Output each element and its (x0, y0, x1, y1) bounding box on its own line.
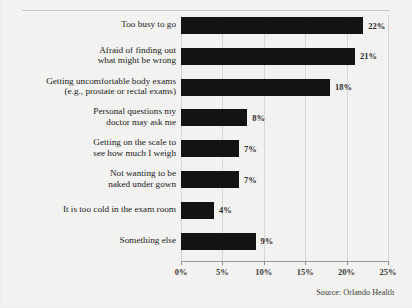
category-label: It is too cold in the exam room (0, 204, 176, 215)
source-attribution: Source: Orlando Health (316, 288, 394, 297)
bar-row: Not wanting to benaked under gown7% (0, 169, 412, 199)
bar-row: Getting on the scale tosee how much I we… (0, 138, 412, 168)
x-tick-mark (305, 261, 306, 265)
category-label-line: Afraid of finding out (0, 45, 176, 56)
category-label-line: Getting on the scale to (0, 137, 176, 148)
category-label: Getting on the scale tosee how much I we… (0, 137, 176, 158)
bar-value-label: 7% (244, 144, 257, 154)
header-divider (22, 10, 390, 11)
x-tick-label: 0% (175, 267, 188, 277)
category-label-line: (e.g., prostate or rectal exams) (0, 86, 176, 97)
bar-row: Afraid of finding outwhat might be wrong… (0, 46, 412, 76)
category-label-line: see how much I weigh (0, 148, 176, 159)
bar-value-label: 9% (261, 236, 274, 246)
bar (181, 79, 330, 96)
bar-chart-figure: 0%5%10%15%20%25% Too busy to go22%Afraid… (0, 0, 412, 308)
bar-value-label: 22% (368, 21, 385, 31)
bar (181, 171, 239, 188)
x-tick-label: 10% (255, 267, 272, 277)
category-label: Getting uncomfortable body exams(e.g., p… (0, 76, 176, 97)
category-label-line: doctor may ask me (0, 117, 176, 128)
bar (181, 109, 247, 126)
category-label-line: what might be wrong (0, 55, 176, 66)
x-tick-label: 25% (380, 267, 397, 277)
bar (181, 17, 363, 34)
bar-row: It is too cold in the exam room4% (0, 200, 412, 230)
category-label-line: Too busy to go (0, 19, 176, 30)
category-label-line: Something else (0, 235, 176, 246)
category-label-line: naked under gown (0, 179, 176, 190)
category-label-line: Not wanting to be (0, 168, 176, 179)
chart-title-cropped (0, 0, 412, 9)
x-tick-mark (264, 261, 265, 265)
category-label: Too busy to go (0, 19, 176, 30)
bar-row: Something else9% (0, 231, 412, 261)
category-label-line: Personal questions my (0, 106, 176, 117)
category-label: Not wanting to benaked under gown (0, 168, 176, 189)
bar-value-label: 18% (335, 82, 352, 92)
bar-value-label: 8% (252, 113, 265, 123)
bar-row: Too busy to go22% (0, 15, 412, 45)
category-label-line: It is too cold in the exam room (0, 204, 176, 215)
x-tick-mark (222, 261, 223, 265)
bar (181, 140, 239, 157)
category-label: Something else (0, 235, 176, 246)
x-tick-mark (347, 261, 348, 265)
category-label: Afraid of finding outwhat might be wrong (0, 45, 176, 66)
bar-row: Personal questions mydoctor may ask me8% (0, 107, 412, 137)
x-tick-mark (181, 261, 182, 265)
bar-row: Getting uncomfortable body exams(e.g., p… (0, 77, 412, 107)
bar-value-label: 4% (219, 205, 232, 215)
x-tick-label: 15% (297, 267, 314, 277)
bar-value-label: 7% (244, 175, 257, 185)
bar (181, 202, 214, 219)
bar-value-label: 21% (360, 51, 377, 61)
category-label: Personal questions mydoctor may ask me (0, 106, 176, 127)
x-tick-label: 5% (216, 267, 229, 277)
bar (181, 233, 256, 250)
category-label-line: Getting uncomfortable body exams (0, 76, 176, 87)
x-tick-label: 20% (338, 267, 355, 277)
x-tick-mark (388, 261, 389, 265)
bar (181, 48, 355, 65)
x-axis-line (181, 261, 389, 262)
